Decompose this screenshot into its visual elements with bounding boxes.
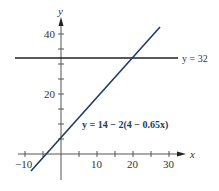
y-axis-label: y: [57, 5, 63, 17]
y-tick-label: 20: [44, 88, 56, 100]
chart: y x −10 10 20 30 20 40 y = 14 − 2(4 − 0.…: [0, 0, 219, 191]
chart-canvas: y x −10 10 20 30 20 40 y = 14 − 2(4 − 0.…: [0, 0, 219, 191]
x-tick-label: 10: [91, 158, 103, 170]
hline-label: y = 32: [182, 53, 208, 64]
x-tick-label: 30: [163, 158, 175, 170]
y-axis-arrow-icon: [59, 17, 64, 26]
x-axis-label: x: [189, 148, 195, 160]
line-equation-label: y = 14 − 2(4 − 0.65x): [82, 119, 168, 131]
x-axis-arrow-icon: [177, 152, 186, 157]
x-tick-label: 20: [127, 158, 139, 170]
x-tick-label: −10: [15, 158, 33, 170]
y-tick-label: 40: [44, 28, 56, 40]
